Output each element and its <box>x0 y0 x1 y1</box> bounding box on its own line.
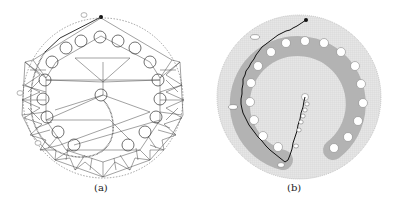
waypoint-label <box>251 35 260 40</box>
obstacle <box>274 143 283 152</box>
waypoint-label <box>81 13 87 18</box>
panel-a <box>17 13 184 178</box>
waypoint-label <box>301 114 305 118</box>
obstacle <box>337 48 346 57</box>
obstacle <box>351 62 360 71</box>
caption-a: (a) <box>94 182 108 193</box>
figure-canvas <box>0 0 393 203</box>
waypoint-label <box>303 108 307 112</box>
waypoint-label <box>35 141 41 146</box>
obstacle <box>330 144 339 153</box>
obstacle <box>247 79 256 88</box>
waypoint-label <box>294 144 299 148</box>
caption-b: (b) <box>287 182 301 193</box>
obstacle <box>359 99 368 108</box>
obstacle <box>254 62 263 71</box>
waypoint-label <box>229 105 238 110</box>
center-target <box>95 89 107 101</box>
obstacle <box>129 42 141 54</box>
waypoint-label <box>299 120 303 124</box>
panel-b <box>217 15 381 179</box>
waypoint-label <box>297 128 301 132</box>
obstacle <box>282 39 291 48</box>
obstacle <box>267 48 276 57</box>
obstacle <box>357 80 366 89</box>
obstacle <box>122 139 134 151</box>
obstacle <box>75 35 87 47</box>
obstacle <box>246 98 255 107</box>
obstacles-a <box>37 31 166 151</box>
waypoint-label <box>278 163 285 168</box>
obstacle <box>354 117 363 126</box>
path-start-segment <box>45 17 101 52</box>
waypoint-label <box>305 102 309 106</box>
obstacle <box>320 39 329 48</box>
waypoint-label <box>17 91 23 96</box>
obstacle <box>37 93 49 105</box>
obstacle <box>250 116 259 125</box>
obstacle <box>301 37 310 46</box>
obstacle <box>60 42 72 54</box>
obstacle <box>94 31 106 43</box>
obstacle <box>139 126 151 138</box>
obstacle <box>344 133 353 142</box>
